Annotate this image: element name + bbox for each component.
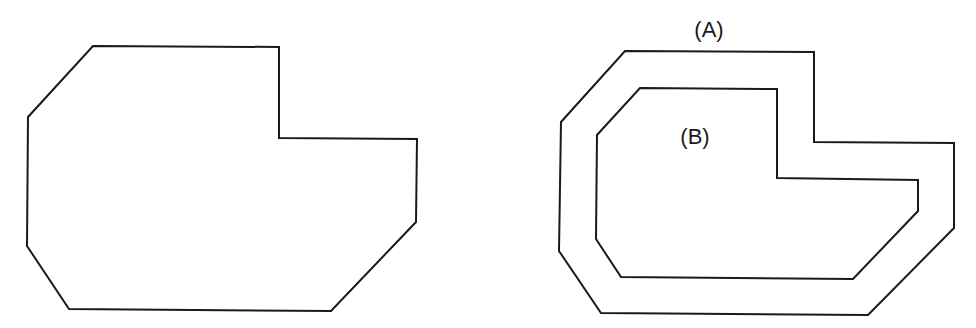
outer-offset-polygon-a [559, 51, 954, 315]
original-polygon [27, 46, 417, 311]
label-b: (B) [680, 124, 709, 149]
inner-offset-polygon-b [596, 88, 918, 279]
polygon-offset-diagram: (A) (B) [0, 0, 976, 328]
label-a: (A) [694, 17, 723, 42]
